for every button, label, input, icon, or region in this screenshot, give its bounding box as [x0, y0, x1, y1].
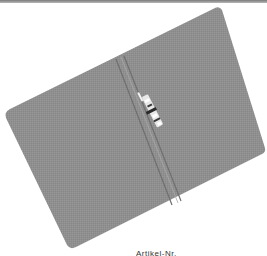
product-photo — [0, 0, 267, 256]
folder — [6, 7, 266, 248]
product-caption: Artikel-Nr. — [136, 250, 177, 256]
